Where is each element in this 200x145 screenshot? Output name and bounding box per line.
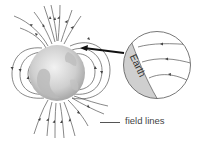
field-lines-label: field lines [125, 115, 165, 126]
magnetic-field-diagram [0, 0, 200, 145]
field-line-arrows-top [30, 16, 74, 36]
earth-globe [29, 45, 85, 101]
pointer-arrow [80, 45, 124, 53]
field-line-arrows-right [87, 37, 103, 74]
field-lines-bottom [34, 96, 108, 138]
field-lines-top [14, 5, 81, 48]
field-line-arrows-bottom [38, 105, 90, 124]
field-lines-pointer [100, 122, 120, 123]
